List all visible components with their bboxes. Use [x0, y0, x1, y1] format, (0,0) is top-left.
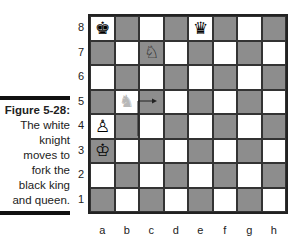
caption-line: and queen. [0, 193, 70, 208]
square-a3: ♔ [90, 139, 115, 164]
rank-label: 3 [76, 144, 86, 156]
square-a1 [90, 188, 115, 213]
file-label: g [237, 224, 262, 236]
square-h8 [262, 16, 287, 41]
caption-line: black king [0, 178, 70, 193]
square-c5 [139, 90, 164, 115]
square-c1 [139, 188, 164, 213]
black-queen-icon: ♛ [193, 20, 208, 37]
rank-label: 7 [76, 46, 86, 58]
square-f8 [213, 16, 238, 41]
square-g8 [237, 16, 262, 41]
square-f4 [213, 114, 238, 139]
file-label: d [164, 224, 189, 236]
square-b8 [115, 16, 140, 41]
square-g1 [237, 188, 262, 213]
square-h3 [262, 139, 287, 164]
figure-caption: Figure 5-28: The white knight moves to f… [0, 96, 70, 215]
square-d2 [164, 163, 189, 188]
square-c6 [139, 65, 164, 90]
rank-label: 6 [76, 70, 86, 82]
rank-label: 8 [76, 21, 86, 33]
square-c2 [139, 163, 164, 188]
square-a2 [90, 163, 115, 188]
square-b2 [115, 163, 140, 188]
file-label: c [139, 224, 164, 236]
square-d8 [164, 16, 189, 41]
square-a7 [90, 41, 115, 66]
square-a4: ♙ [90, 114, 115, 139]
square-f1 [213, 188, 238, 213]
caption-line: The white [0, 118, 70, 133]
caption-line: fork the [0, 163, 70, 178]
file-label: a [90, 224, 115, 236]
square-b6 [115, 65, 140, 90]
rank-label: 2 [76, 168, 86, 180]
square-b7 [115, 41, 140, 66]
square-h1 [262, 188, 287, 213]
square-a6 [90, 65, 115, 90]
chess-board: ♚♛♘♞♙♔ [88, 14, 288, 214]
caption-line: moves to [0, 148, 70, 163]
square-e5 [188, 90, 213, 115]
square-d1 [164, 188, 189, 213]
square-c7: ♘ [139, 41, 164, 66]
square-b1 [115, 188, 140, 213]
square-a5 [90, 90, 115, 115]
square-a8: ♚ [90, 16, 115, 41]
square-e4 [188, 114, 213, 139]
black-king-icon: ♚ [95, 20, 110, 37]
square-e3 [188, 139, 213, 164]
rank-label: 1 [76, 193, 86, 205]
square-f5 [213, 90, 238, 115]
square-d5 [164, 90, 189, 115]
square-h4 [262, 114, 287, 139]
square-d4 [164, 114, 189, 139]
file-label: h [262, 224, 287, 236]
file-label: b [115, 224, 140, 236]
square-d6 [164, 65, 189, 90]
square-b3 [115, 139, 140, 164]
square-e8: ♛ [188, 16, 213, 41]
square-g4 [237, 114, 262, 139]
square-f7 [213, 41, 238, 66]
white-knight-ghost-icon: ♞ [119, 93, 134, 110]
square-h6 [262, 65, 287, 90]
white-pawn-icon: ♙ [95, 118, 110, 135]
square-d7 [164, 41, 189, 66]
square-e2 [188, 163, 213, 188]
square-g2 [237, 163, 262, 188]
caption-top-rule [0, 96, 70, 100]
square-g5 [237, 90, 262, 115]
square-f2 [213, 163, 238, 188]
white-king-icon: ♔ [95, 142, 110, 159]
square-c8 [139, 16, 164, 41]
square-g7 [237, 41, 262, 66]
caption-title: Figure 5-28: [0, 103, 70, 118]
square-c3 [139, 139, 164, 164]
white-knight-icon: ♘ [144, 44, 159, 61]
rank-label: 4 [76, 119, 86, 131]
caption-body: The white knight moves to fork the black… [0, 118, 70, 208]
square-e1 [188, 188, 213, 213]
caption-line: knight [0, 133, 70, 148]
square-e7 [188, 41, 213, 66]
square-f6 [213, 65, 238, 90]
square-e6 [188, 65, 213, 90]
square-h7 [262, 41, 287, 66]
file-label: f [213, 224, 238, 236]
square-g6 [237, 65, 262, 90]
square-f3 [213, 139, 238, 164]
square-h2 [262, 163, 287, 188]
square-b4 [115, 114, 140, 139]
rank-label: 5 [76, 95, 86, 107]
square-g3 [237, 139, 262, 164]
square-d3 [164, 139, 189, 164]
file-label: e [188, 224, 213, 236]
square-b5: ♞ [115, 90, 140, 115]
square-h5 [262, 90, 287, 115]
caption-bottom-rule [0, 211, 70, 215]
square-c4 [139, 114, 164, 139]
